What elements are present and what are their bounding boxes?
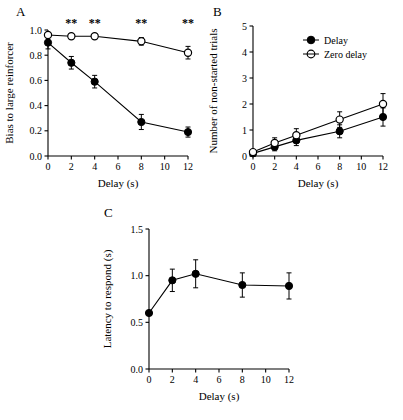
svg-text:6: 6 xyxy=(217,374,222,385)
svg-text:10: 10 xyxy=(160,161,170,172)
svg-text:Latency to respond (s): Latency to respond (s) xyxy=(101,249,114,348)
panel-b: B 024681012012345Delay (s)Number of non-… xyxy=(203,4,403,204)
svg-text:0: 0 xyxy=(147,374,152,385)
svg-text:3: 3 xyxy=(242,73,247,84)
svg-text:6: 6 xyxy=(316,161,321,172)
panel-a: A 0246810120.00.20.40.60.81.0Delay (s)Bi… xyxy=(0,4,205,204)
svg-text:1: 1 xyxy=(242,125,247,136)
svg-text:2: 2 xyxy=(69,161,74,172)
svg-text:1.0: 1.0 xyxy=(30,25,43,36)
panel-b-chart: 024681012012345Delay (s)Number of non-st… xyxy=(203,4,403,204)
panel-a-chart: 0246810120.00.20.40.60.81.0Delay (s)Bias… xyxy=(0,4,205,204)
svg-text:**: ** xyxy=(135,16,147,30)
svg-text:0.2: 0.2 xyxy=(30,125,43,136)
svg-text:**: ** xyxy=(65,16,77,30)
svg-text:10: 10 xyxy=(356,161,366,172)
svg-text:4: 4 xyxy=(294,161,299,172)
svg-text:12: 12 xyxy=(378,161,388,172)
svg-text:**: ** xyxy=(182,16,194,30)
panel-c-letter: C xyxy=(104,205,113,221)
svg-text:0: 0 xyxy=(46,161,51,172)
svg-text:12: 12 xyxy=(284,374,294,385)
svg-text:0.5: 0.5 xyxy=(131,317,144,328)
svg-text:0.8: 0.8 xyxy=(30,50,43,61)
svg-text:10: 10 xyxy=(261,374,271,385)
svg-text:2: 2 xyxy=(272,161,277,172)
svg-text:0.4: 0.4 xyxy=(30,100,43,111)
svg-text:0.0: 0.0 xyxy=(30,151,43,162)
svg-text:0: 0 xyxy=(242,151,247,162)
svg-text:Delay: Delay xyxy=(324,35,348,46)
svg-text:5: 5 xyxy=(242,21,247,32)
svg-text:4: 4 xyxy=(92,161,97,172)
svg-text:2: 2 xyxy=(170,374,175,385)
svg-text:6: 6 xyxy=(116,161,121,172)
svg-text:Bias to large reinforcer: Bias to large reinforcer xyxy=(3,42,15,144)
panel-b-letter: B xyxy=(213,4,222,20)
svg-text:0.6: 0.6 xyxy=(30,75,43,86)
panel-a-letter: A xyxy=(16,4,25,20)
svg-text:1.5: 1.5 xyxy=(131,224,144,235)
svg-text:Zero delay: Zero delay xyxy=(324,49,367,60)
svg-text:2: 2 xyxy=(242,99,247,110)
svg-text:4: 4 xyxy=(242,47,247,58)
svg-text:8: 8 xyxy=(240,374,245,385)
svg-text:0: 0 xyxy=(251,161,256,172)
svg-text:12: 12 xyxy=(183,161,193,172)
svg-text:Number of non-started trials: Number of non-started trials xyxy=(207,29,219,154)
svg-text:Delay (s): Delay (s) xyxy=(199,390,240,403)
svg-text:1.0: 1.0 xyxy=(131,270,144,281)
svg-text:0.0: 0.0 xyxy=(131,364,144,375)
panel-c-chart: 0246810120.00.51.01.5Delay (s)Latency to… xyxy=(95,205,310,420)
svg-text:Delay (s): Delay (s) xyxy=(298,177,339,190)
svg-text:Delay (s): Delay (s) xyxy=(98,177,139,190)
svg-text:8: 8 xyxy=(139,161,144,172)
svg-text:**: ** xyxy=(89,16,101,30)
svg-text:4: 4 xyxy=(193,374,198,385)
panel-c: C 0246810120.00.51.01.5Delay (s)Latency … xyxy=(95,205,310,420)
svg-text:8: 8 xyxy=(337,161,342,172)
